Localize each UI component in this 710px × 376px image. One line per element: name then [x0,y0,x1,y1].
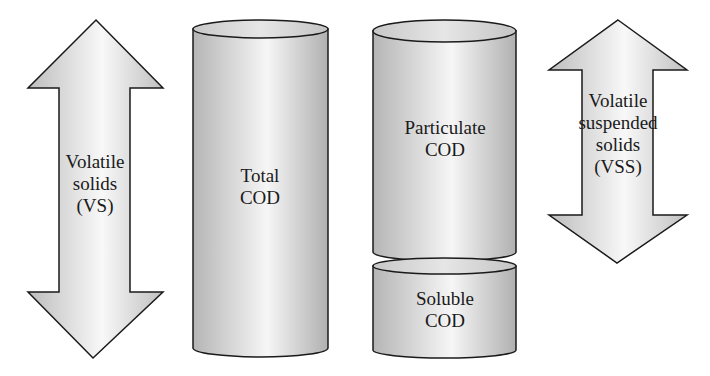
vs-label-line: (VS) [50,195,140,217]
total-cod-label-line: COD [200,187,320,209]
vs-label-line: Volatile [50,151,140,173]
vss-label-line: (VSS) [568,156,668,178]
vs-label: Volatile solids (VS) [50,151,140,217]
soluble-cod-label-line: COD [380,310,510,332]
particulate-cod-label-line: Particulate [380,117,510,139]
vs-label-line: solids [50,173,140,195]
soluble-cod-label: Soluble COD [380,288,510,332]
vss-label-line: suspended [568,112,668,134]
total-cod-label: Total COD [200,165,320,209]
soluble-cod-label-line: Soluble [380,288,510,310]
vss-label-line: solids [568,134,668,156]
vss-label: Volatile suspended solids (VSS) [568,90,668,178]
particulate-cod-label-line: COD [380,139,510,161]
total-cod-label-line: Total [200,165,320,187]
particulate-cod-label: Particulate COD [380,117,510,161]
vss-label-line: Volatile [568,90,668,112]
